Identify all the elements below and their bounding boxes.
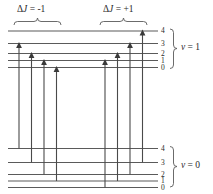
upper-j-label-0: 0 — [161, 64, 165, 72]
branch-braces — [14, 18, 147, 25]
right-branch-brace — [100, 18, 147, 25]
upper-j-label-3: 3 — [161, 40, 165, 48]
delta-j-plus-label: ΔJ = +1 — [103, 5, 134, 15]
delta-j-minus-value: = -1 — [27, 4, 45, 14]
lower-manifold-brace — [170, 147, 177, 188]
transition-arrow — [41, 59, 47, 175]
left-branch-brace — [14, 18, 61, 25]
upper-vibrational-label: ν = 1 — [181, 43, 200, 53]
manifold-braces — [170, 29, 177, 187]
lower-manifold-levels — [8, 149, 158, 188]
lower-vibrational-label: ν = 0 — [181, 161, 200, 171]
transition-arrow — [115, 52, 121, 181]
transition-arrow — [102, 59, 108, 188]
lower-v-value: = 0 — [185, 160, 200, 170]
upper-v-value: = 1 — [185, 42, 200, 52]
lower-j-label-3: 3 — [161, 159, 165, 167]
transition-arrow — [127, 42, 133, 175]
transition-arrow — [16, 42, 22, 149]
upper-manifold-brace — [170, 29, 177, 69]
delta-j-minus-label: ΔJ = -1 — [17, 5, 45, 15]
transition-arrow — [29, 52, 35, 163]
transition-arrow — [54, 66, 60, 181]
delta-j-plus-value: = +1 — [113, 4, 133, 14]
transition-arrow — [140, 30, 146, 163]
lower-j-label-4: 4 — [161, 145, 165, 153]
upper-manifold-levels — [8, 31, 158, 68]
upper-j-label-4: 4 — [161, 27, 165, 35]
energy-level-diagram: ΔJ = -1 ΔJ = +1 4 3 2 1 0 4 3 2 1 0 ν = … — [0, 0, 213, 194]
left-branch-transitions — [16, 42, 59, 181]
lower-j-label-0: 0 — [161, 184, 165, 192]
